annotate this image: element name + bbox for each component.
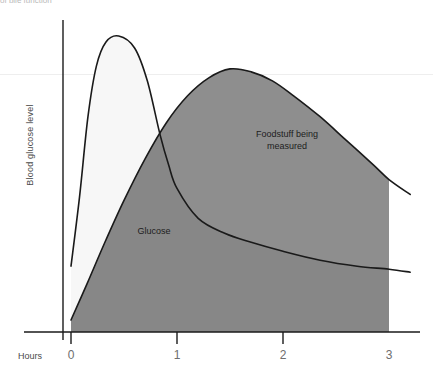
chart-svg <box>0 0 433 387</box>
x-axis-ticks <box>71 332 283 344</box>
y-axis-label: Blood glucose level <box>25 90 35 200</box>
annotation-foodstuff: Foodstuff being measured <box>232 128 342 152</box>
x-tick-label-1: 1 <box>167 348 187 362</box>
annotation-glucose: Glucose <box>109 225 199 237</box>
x-tick-label-0: 0 <box>61 348 81 362</box>
x-tick-label-3: 3 <box>379 348 399 362</box>
chart-plot-area <box>0 0 433 387</box>
x-axis-label: Hours <box>18 351 42 361</box>
x-tick-label-2: 2 <box>273 348 293 362</box>
chart-page: of bile function Blood glucose level Hou… <box>0 0 433 387</box>
